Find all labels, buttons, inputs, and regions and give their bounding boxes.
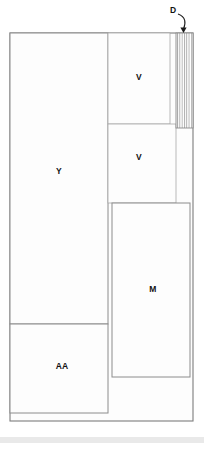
callout-arrow-d (178, 14, 185, 29)
room-label-v-lower: V (136, 152, 142, 162)
room-y-fill (10, 33, 108, 324)
callout-arrowhead-icon (180, 27, 186, 33)
room-v-lower-fill (108, 124, 176, 203)
floor-plan-canvas: Y V V M AA D (0, 0, 204, 449)
callout-label-d: D (170, 5, 176, 15)
footer-band (0, 437, 204, 443)
room-label-aa: AA (56, 361, 69, 371)
room-label-v-upper: V (136, 72, 142, 82)
room-label-y: Y (56, 166, 62, 176)
room-label-m: M (149, 284, 156, 294)
floor-plan-diagram: Y V V M AA D (0, 0, 204, 449)
hatched-region-d (176, 33, 193, 128)
